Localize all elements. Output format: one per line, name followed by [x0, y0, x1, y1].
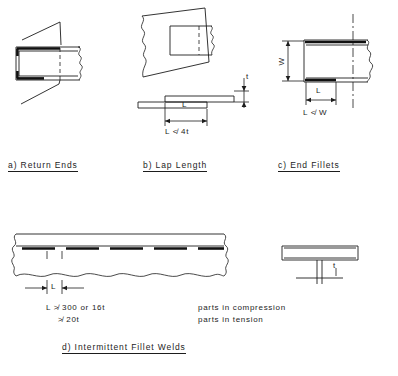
- figure-b-dim-L: L: [182, 100, 187, 109]
- figure-d-caption: d) Intermittent Fillet Welds: [62, 342, 186, 352]
- L-arrow-left: [42, 286, 47, 291]
- figure-b-condition: L ≮ 4t: [165, 127, 189, 136]
- figure-d-intermittent-welds-elevation: [0, 218, 240, 298]
- upper-leader-vertical: [60, 22, 61, 45]
- figure-d-tee-section-detail: [268, 238, 398, 308]
- W-arrow-top: [286, 41, 291, 46]
- upper-leader-line: [22, 22, 60, 40]
- figure-d-note-2-expression: ≯ 20t: [58, 315, 80, 324]
- elevation-upper-bar: [165, 96, 234, 102]
- figure-c-dim-L: L: [316, 86, 321, 95]
- thickness-arrow-up: [242, 86, 247, 91]
- left-break-wavy: [12, 234, 16, 276]
- W-arrow-bottom: [286, 76, 291, 81]
- figure-b-dim-t: t: [246, 72, 249, 81]
- break-line-wavy: [79, 47, 83, 80]
- figure-d-dim-t: t: [333, 261, 336, 270]
- L-arrow-left: [165, 119, 170, 124]
- thickness-arrow-down: [242, 102, 247, 107]
- lower-leader-vertical: [59, 80, 60, 84]
- L-arrow-right: [331, 98, 336, 103]
- figure-d-note-1-expression: L ≯ 300 or 16t: [46, 303, 105, 312]
- perspective-break-line-wavy: [141, 16, 146, 77]
- bottom-break-wavy: [16, 274, 224, 277]
- break-line-wavy: [367, 40, 373, 82]
- L-arrow-right: [202, 119, 207, 124]
- lower-leader-line: [21, 84, 59, 104]
- L-arrow-left: [306, 98, 311, 103]
- figure-b-lap-length: [130, 0, 265, 145]
- figure-c-end-fillets: [268, 0, 398, 145]
- figure-a-caption: a) Return Ends: [8, 160, 78, 170]
- elevation-lower-bar: [138, 102, 207, 108]
- right-break-wavy: [224, 234, 228, 276]
- figure-c-dim-W: W: [277, 57, 286, 65]
- L-arrow-right: [62, 286, 67, 291]
- lap-plate-break-wavy: [211, 26, 215, 55]
- figure-d-note-1-description: parts in compression: [198, 303, 286, 312]
- figure-c-condition: L ≮ W: [303, 108, 327, 117]
- figure-d-dim-L: L: [51, 282, 56, 291]
- perspective-right-edge: [205, 8, 209, 62]
- drawing-sheet: a) Return Ends L t L ≮: [0, 0, 398, 376]
- figure-b-caption: b) Lap Length: [143, 160, 207, 170]
- perspective-bottom-edge: [143, 62, 209, 77]
- perspective-top-edge: [142, 8, 205, 16]
- figure-d-note-2-description: parts in tension: [198, 315, 263, 324]
- figure-c-caption: c) End Fillets: [278, 160, 340, 170]
